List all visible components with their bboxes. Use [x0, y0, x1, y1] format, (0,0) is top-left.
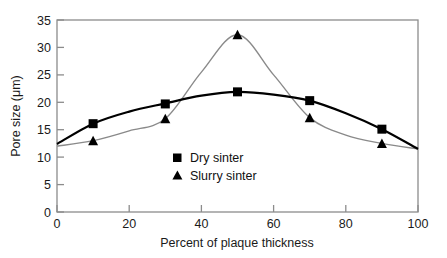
y-tick-label: 15	[37, 123, 51, 137]
data-point-dry-sinter	[233, 87, 242, 96]
chart-figure: 35 30 25 20 15 10 5 0 0 20 40 60 80 100 …	[0, 0, 447, 258]
x-tick-label: 80	[339, 217, 353, 231]
legend-label-slurry-sinter: Slurry sinter	[190, 169, 257, 183]
y-axis-title: Pore size (μm)	[9, 75, 23, 157]
x-axis-title: Percent of plaque thickness	[160, 236, 314, 250]
data-point-dry-sinter	[377, 125, 386, 134]
pore-size-line-chart: 35 30 25 20 15 10 5 0 0 20 40 60 80 100 …	[0, 0, 447, 258]
data-point-dry-sinter	[161, 99, 170, 108]
x-tick-label: 100	[408, 217, 429, 231]
square-marker-icon	[173, 154, 182, 163]
data-point-dry-sinter	[89, 119, 98, 128]
y-tick-label: 5	[44, 178, 51, 192]
y-tick-label: 0	[44, 206, 51, 220]
y-tick-label: 20	[37, 96, 51, 110]
x-tick-label: 40	[194, 217, 208, 231]
y-tick-label: 25	[37, 68, 51, 82]
y-tick-label: 30	[37, 41, 51, 55]
legend-label-dry-sinter: Dry sinter	[190, 151, 243, 165]
y-tick-label: 10	[37, 151, 51, 165]
x-tick-label: 60	[267, 217, 281, 231]
x-tick-label: 0	[54, 217, 61, 231]
data-point-dry-sinter	[305, 96, 314, 105]
x-tick-label: 20	[122, 217, 136, 231]
y-tick-label: 35	[37, 14, 51, 28]
